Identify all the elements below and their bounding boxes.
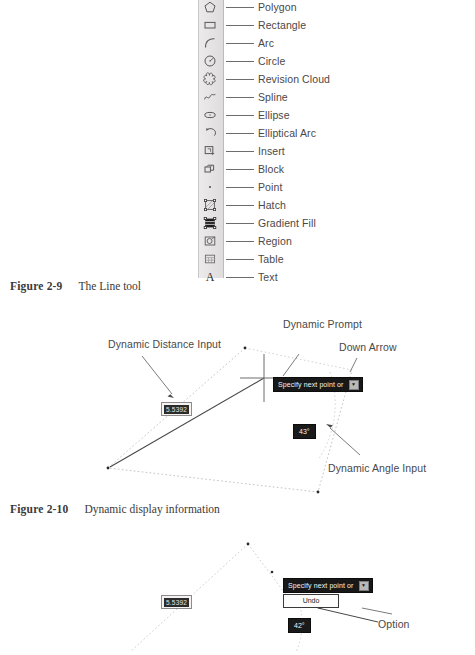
insert-icon[interactable] xyxy=(198,142,222,160)
down-arrow-glyph: ▼ xyxy=(361,583,366,588)
figure-2-11-illustration: 5.5392 Specify next point or ▼ Undo 42° … xyxy=(0,534,475,655)
region-icon[interactable] xyxy=(198,232,222,250)
leader-line xyxy=(226,79,254,80)
toolbar-label: Arc xyxy=(258,34,274,52)
toolbar-item-circle[interactable]: Circle xyxy=(198,52,468,70)
toolbar-item-point[interactable]: Point xyxy=(198,178,468,196)
toolbar-label: Table xyxy=(258,250,284,268)
toolbar-item-region[interactable]: Region xyxy=(198,232,468,250)
down-arrow-icon[interactable]: ▼ xyxy=(349,380,359,390)
annotation-dynamic-distance-input: Dynamic Distance Input xyxy=(108,338,221,350)
ellipse-icon[interactable] xyxy=(198,106,222,124)
toolbar-label: Region xyxy=(258,232,292,250)
toolbar-item-block[interactable]: Block xyxy=(198,160,468,178)
elliptical-arc-icon[interactable] xyxy=(198,124,222,142)
leader-line xyxy=(226,151,254,152)
leader-line xyxy=(226,205,254,206)
angle-value: 43° xyxy=(299,426,310,437)
toolbar-label: Hatch xyxy=(258,196,286,214)
spline-icon[interactable] xyxy=(198,88,222,106)
toolbar-label: Revision Cloud xyxy=(258,70,330,88)
annotation-dynamic-prompt: Dynamic Prompt xyxy=(283,318,362,330)
block-icon[interactable] xyxy=(198,160,222,178)
point-icon[interactable] xyxy=(198,178,222,196)
leader-line xyxy=(226,25,254,26)
text-icon[interactable]: A xyxy=(198,268,222,286)
prompt-text: Specify next point or xyxy=(278,379,344,390)
toolbar-label: Gradient Fill xyxy=(258,214,316,232)
table-icon[interactable] xyxy=(198,250,222,268)
svg-text:A: A xyxy=(206,270,215,284)
polygon-icon[interactable] xyxy=(198,0,222,16)
figure-2-9-illustration: Polygon Rectangle Arc Circle xyxy=(0,0,475,290)
circle-icon[interactable] xyxy=(198,52,222,70)
dynamic-distance-input-field[interactable]: 5.5392 xyxy=(161,595,192,609)
dynamic-prompt-tooltip[interactable]: Specify next point or ▼ xyxy=(283,578,373,593)
distance-value: 5.5392 xyxy=(164,598,189,607)
toolbar-item-ellipse[interactable]: Ellipse xyxy=(198,106,468,124)
figure-2-11-drawing xyxy=(0,534,475,655)
figure-2-9-caption: Figure 2-9 The Line tool xyxy=(10,280,141,292)
toolbar-item-insert[interactable]: Insert xyxy=(198,142,468,160)
toolbar-item-hatch[interactable]: Hatch xyxy=(198,196,468,214)
dynamic-angle-input-field[interactable]: 42° xyxy=(288,618,311,633)
toolbar-label: Insert xyxy=(258,142,285,160)
leader-line xyxy=(226,97,254,98)
toolbar-item-rectangle[interactable]: Rectangle xyxy=(198,16,468,34)
leader-line xyxy=(226,277,254,278)
dynamic-distance-input-field[interactable]: 5.5392 xyxy=(161,402,192,416)
prompt-text: Specify next point or xyxy=(288,580,354,591)
figure-title: Dynamic display information xyxy=(84,503,219,515)
toolbar-label: Text xyxy=(258,268,278,286)
toolbar-item-arc[interactable]: Arc xyxy=(198,34,468,52)
gradient-fill-icon[interactable] xyxy=(198,214,222,232)
distance-value: 5.5392 xyxy=(164,405,189,414)
figure-number: Figure 2-10 xyxy=(10,503,69,515)
annotation-down-arrow: Down Arrow xyxy=(339,341,397,353)
toolbar-item-table[interactable]: Table xyxy=(198,250,468,268)
hatch-icon[interactable] xyxy=(198,196,222,214)
toolbar-item-spline[interactable]: Spline xyxy=(198,88,468,106)
figure-2-10-caption: Figure 2-10 Dynamic display information xyxy=(10,503,220,515)
leader-line xyxy=(226,133,254,134)
angle-value: 42° xyxy=(294,620,305,631)
toolbar-label: Block xyxy=(258,160,284,178)
option-label: Undo xyxy=(303,595,320,607)
figure-number: Figure 2-9 xyxy=(10,280,63,292)
toolbar-item-gradient-fill[interactable]: Gradient Fill xyxy=(198,214,468,232)
leader-line xyxy=(226,43,254,44)
figure-title: The Line tool xyxy=(78,280,141,292)
leader-line xyxy=(226,241,254,242)
toolbar-item-elliptical-arc[interactable]: Elliptical Arc xyxy=(198,124,468,142)
toolbar-item-revision-cloud[interactable]: Revision Cloud xyxy=(198,70,468,88)
toolbar-label: Point xyxy=(258,178,282,196)
leader-line xyxy=(226,187,254,188)
toolbar-label: Spline xyxy=(258,88,288,106)
rectangle-icon[interactable] xyxy=(198,16,222,34)
arc-icon[interactable] xyxy=(198,34,222,52)
down-arrow-glyph: ▼ xyxy=(351,382,356,387)
toolbar-label: Elliptical Arc xyxy=(258,124,316,142)
toolbar-label: Rectangle xyxy=(258,16,306,34)
toolbar-label: Ellipse xyxy=(258,106,290,124)
down-arrow-icon[interactable]: ▼ xyxy=(359,581,369,591)
annotation-option: Option xyxy=(378,618,410,630)
leader-line xyxy=(226,115,254,116)
dynamic-prompt-tooltip[interactable]: Specify next point or ▼ xyxy=(273,377,363,392)
toolbar-label: Polygon xyxy=(258,0,297,16)
leader-line xyxy=(226,7,254,8)
leader-line xyxy=(226,259,254,260)
revision-cloud-icon[interactable] xyxy=(198,70,222,88)
annotation-dynamic-angle-input: Dynamic Angle Input xyxy=(328,462,426,474)
leader-line xyxy=(226,169,254,170)
leader-line xyxy=(226,61,254,62)
dynamic-angle-input-field[interactable]: 43° xyxy=(293,424,316,439)
leader-line xyxy=(226,223,254,224)
toolbar-item-polygon[interactable]: Polygon xyxy=(198,0,468,16)
toolbar-label: Circle xyxy=(258,52,285,70)
figure-2-10-illustration: Dynamic Distance Input Dynamic Prompt Do… xyxy=(0,310,475,500)
option-undo-item[interactable]: Undo xyxy=(283,594,339,608)
textbook-page: Polygon Rectangle Arc Circle xyxy=(0,0,475,655)
toolbar-item-text[interactable]: A Text xyxy=(198,268,468,286)
